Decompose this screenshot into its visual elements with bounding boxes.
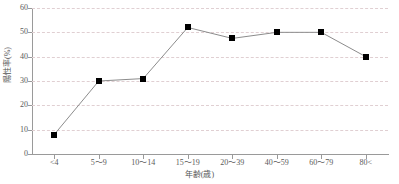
- y-axis-tick-label: 50: [4, 28, 28, 36]
- y-axis-tick-mark: [28, 105, 32, 106]
- plot-area: [32, 8, 388, 154]
- data-point-marker: [96, 78, 102, 84]
- y-axis-tick-mark: [28, 8, 32, 9]
- gridline: [32, 81, 388, 82]
- y-axis-tick-label: 20: [4, 101, 28, 109]
- y-axis-tick-label: 60: [4, 4, 28, 12]
- data-point-marker: [363, 54, 369, 60]
- data-point-marker: [140, 76, 146, 82]
- y-axis-tick-mark: [28, 130, 32, 131]
- gridline: [32, 8, 388, 9]
- y-axis-tick-mark: [28, 154, 32, 155]
- data-point-marker: [185, 24, 191, 30]
- data-point-marker: [229, 35, 235, 41]
- gridline: [32, 105, 388, 106]
- y-axis-tick-label: 30: [4, 77, 28, 85]
- data-point-marker: [318, 29, 324, 35]
- gridline: [32, 32, 388, 33]
- x-axis-line: [32, 154, 389, 155]
- y-axis-tick-label: 0: [4, 150, 28, 158]
- y-axis-tick-mark: [28, 32, 32, 33]
- data-point-marker: [274, 29, 280, 35]
- line-chart: 陽性率(%) 年齢(歳) 0102030405060<45～910～1415～1…: [0, 0, 399, 184]
- gridline: [32, 130, 388, 131]
- data-point-marker: [51, 132, 57, 138]
- x-axis-title: 年齢(歳): [0, 168, 399, 179]
- gridline: [32, 57, 388, 58]
- y-axis-tick-mark: [28, 81, 32, 82]
- y-axis-tick-label: 40: [4, 53, 28, 61]
- y-axis-tick-label: 10: [4, 126, 28, 134]
- y-axis-title: 陽性率(%): [1, 35, 15, 95]
- y-axis-tick-mark: [28, 57, 32, 58]
- x-axis-tick-label: 80<: [336, 158, 396, 168]
